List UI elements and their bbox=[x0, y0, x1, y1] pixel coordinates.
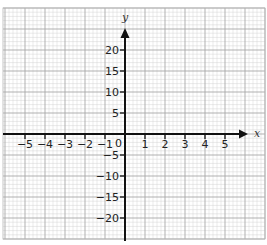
graph-paper-chart: x y −5−4−3−2−112345 2015105−5−10−15−20 0 bbox=[0, 0, 267, 245]
x-axis-arrow-icon bbox=[239, 130, 248, 139]
x-tick-label: 3 bbox=[182, 138, 189, 151]
x-axis-label: x bbox=[254, 127, 261, 140]
origin-label: 0 bbox=[115, 137, 122, 150]
y-tick-label: −15 bbox=[96, 191, 119, 204]
y-tick-label: −10 bbox=[96, 170, 119, 183]
y-tick-label: −20 bbox=[96, 212, 119, 225]
grid-border bbox=[3, 8, 265, 239]
y-tick-label: 5 bbox=[112, 107, 119, 120]
y-tick-label: 10 bbox=[105, 86, 119, 99]
x-tick-label: 1 bbox=[142, 138, 149, 151]
x-tick-label: −3 bbox=[57, 138, 73, 151]
y-tick-label: 20 bbox=[105, 44, 119, 57]
x-tick-label: −2 bbox=[77, 138, 93, 151]
y-axis-label: y bbox=[121, 11, 129, 24]
major-grid bbox=[3, 8, 265, 239]
x-tick-label: −4 bbox=[37, 138, 53, 151]
x-tick-label: 4 bbox=[202, 138, 209, 151]
y-tick-label: 15 bbox=[105, 65, 119, 78]
x-tick-label: 5 bbox=[222, 138, 229, 151]
x-tick-label: −5 bbox=[17, 138, 33, 151]
y-tick-label: −5 bbox=[103, 149, 119, 162]
minor-grid bbox=[3, 8, 265, 239]
x-tick-label: 2 bbox=[162, 138, 169, 151]
